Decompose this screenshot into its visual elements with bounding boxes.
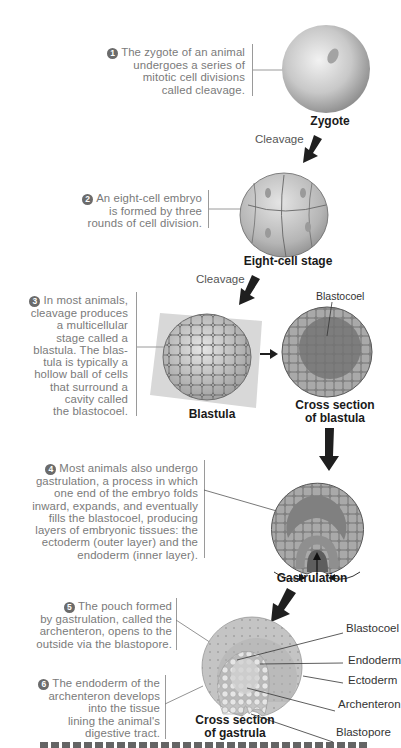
caption-line: cavity called (20, 393, 128, 405)
cleavage-arrow-2 (236, 275, 262, 307)
caption-line: ectoderm (outer layer) and the (18, 536, 198, 548)
zygote-illustration (250, 20, 385, 120)
cleavage-arrow-1 (300, 135, 324, 165)
caption-line: An eight-cell embryo (96, 192, 202, 204)
caption-line: blastula. The blas- (20, 344, 128, 356)
step-3-caption: 3In most animals, cleavage produces a mu… (20, 294, 128, 418)
step-number-badge: 6 (38, 679, 49, 690)
step-6-caption: 6The endoderm of the archenteron develop… (26, 677, 160, 739)
blastula-label: Blastula (182, 408, 242, 421)
caption-line: lining the animal's (26, 715, 160, 727)
caption-line: endoderm (inner layer). (18, 549, 198, 561)
caption-line: into the tissue (26, 702, 160, 714)
gastrulation-label: Gastrulation (272, 572, 352, 585)
caption-line: The zygote of an animal (121, 46, 245, 58)
blastopore-label: Blastopore (336, 726, 391, 738)
caption-line: layers of embryonic tissues: the (18, 524, 198, 536)
step-number-badge: 1 (107, 48, 118, 59)
step-2-caption: 2An eight-cell embryo is formed by three… (60, 192, 202, 230)
blastula-to-cross-section-arrow (260, 348, 280, 360)
zygote-label: Zygote (300, 115, 360, 128)
label-line: of blastula (295, 412, 375, 425)
archenteron (231, 658, 259, 694)
endoderm-label: Endoderm (348, 654, 401, 666)
caption-line: archenteron develops (26, 690, 160, 702)
caption-line: is formed by three (60, 205, 202, 217)
step-4-caption: 4Most animals also undergo gastrulation,… (18, 462, 198, 561)
caption-line: that surround a (20, 381, 128, 393)
label-line: of gastrula (195, 727, 275, 740)
caption-line: fills the blastocoel, producing (18, 512, 198, 524)
caption-line: The pouch formed (78, 600, 172, 612)
caption-line: inward, expands, and eventually (18, 500, 198, 512)
caption-line: cleavage produces (20, 307, 128, 319)
caption-line: the blastocoel. (20, 405, 128, 417)
caption-line: gastrulation, a process in which (18, 475, 198, 487)
caption-line: In most animals, (43, 294, 128, 306)
zygote-cell (282, 25, 370, 113)
step-5-caption: 5The pouch formed by gastrulation, calle… (26, 600, 172, 650)
leader-line (165, 686, 203, 704)
caption-line: one end of the embryo folds (18, 487, 198, 499)
step-number-badge: 2 (82, 194, 93, 205)
step-number-badge: 4 (45, 464, 56, 475)
blastocoel-label: Blastocoel (346, 622, 399, 634)
caption-line: digestive tract. (26, 727, 160, 739)
caption-line: outside via the blastopore. (26, 638, 172, 650)
caption-line: by gastrulation, called the (26, 613, 172, 625)
ectoderm-label: Ectoderm (348, 674, 397, 686)
caption-line: a multicellular (20, 319, 128, 331)
caption-line: rounds of cell division. (60, 217, 202, 229)
eight-cell-label: Eight-cell stage (238, 255, 338, 268)
caption-line: tula is typically a (20, 356, 128, 368)
eight-cell-embryo-illustration (208, 165, 333, 260)
cross-section-blastula-label: Cross section of blastula (295, 399, 375, 425)
caption-line: archenteron, opens to the (26, 625, 172, 637)
cross-section-gastrula-label: Cross section of gastrula (195, 714, 275, 740)
caption-line: hollow ball of cells (20, 368, 128, 380)
step-1-caption: 1The zygote of an animal undergoes a ser… (95, 46, 245, 96)
caption-line: Most animals also undergo (59, 462, 198, 474)
blastula-illustration (136, 305, 266, 415)
blastula-cross-section-illustration (280, 300, 375, 400)
caption-line: mitotic cell divisions (95, 71, 245, 83)
cleavage-label-1: Cleavage (255, 133, 304, 145)
cropped-figure-caption (40, 742, 370, 748)
step-number-badge: 3 (29, 296, 40, 307)
blastula-to-gastrula-arrow (318, 428, 340, 472)
caption-line: stage called a (20, 332, 128, 344)
caption-line: called cleavage. (95, 84, 245, 96)
archenteron-label: Archenteron (338, 698, 401, 710)
caption-line: undergoes a series of (95, 59, 245, 71)
step-number-badge: 5 (64, 602, 75, 613)
caption-line: The endoderm of the (52, 677, 160, 689)
